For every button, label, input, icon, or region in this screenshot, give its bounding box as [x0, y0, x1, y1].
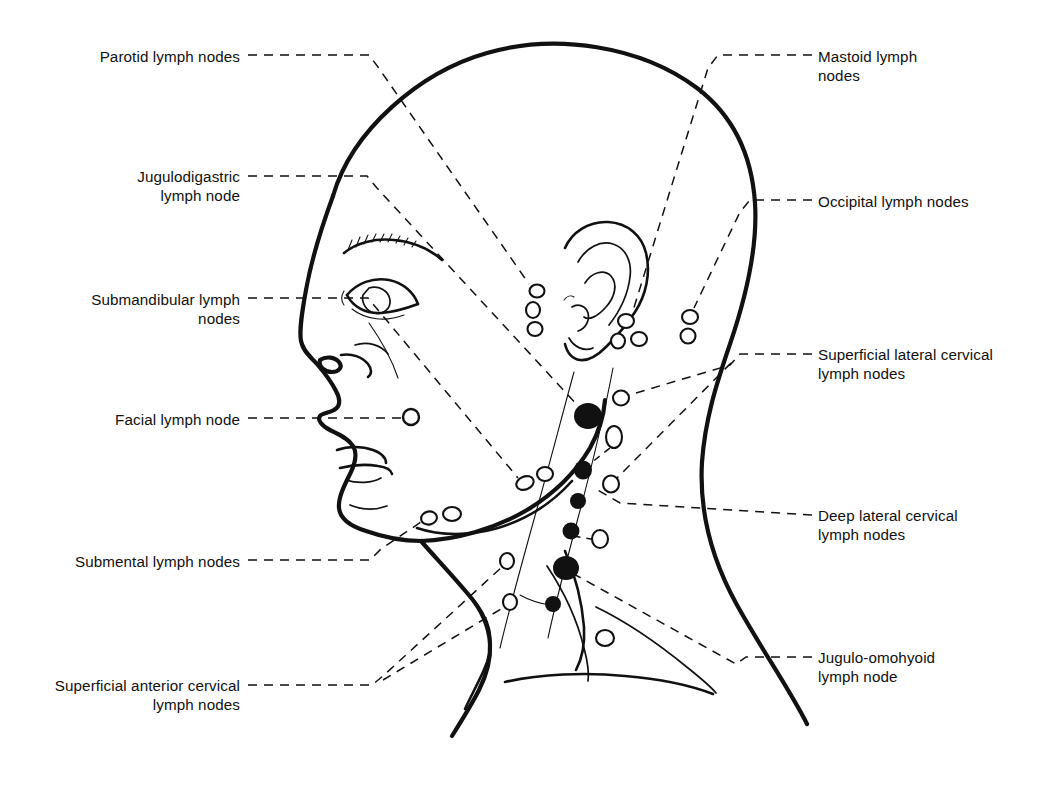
- nose-ala: [341, 354, 371, 377]
- leader-mastoid: [632, 55, 812, 314]
- lymph-node-deep-lateral-cervical-1: [606, 426, 622, 448]
- lymph-node-parotid-1: [530, 285, 545, 298]
- eye-inner-corner: [342, 291, 344, 305]
- lymph-node-deep-chain-6: [545, 596, 561, 612]
- clavicle-contour: [505, 674, 713, 694]
- lymph-node-deep-chain-2: [574, 461, 592, 480]
- leader-superficial-lateral-cervical-b: [617, 363, 731, 478]
- lymph-node-submental-2: [443, 507, 461, 521]
- label-occipital-lymph-nodes: Occipital lymph nodes: [818, 192, 1053, 211]
- eyebrow-hairs: [348, 234, 416, 250]
- skull-and-neck-contour: [333, 44, 807, 724]
- lymph-node-diagram: Parotid lymph nodes Jugulodigastric lymp…: [0, 0, 1061, 785]
- label-submandibular-lymph-nodes: Submandibular lymph nodes: [0, 290, 240, 328]
- lower-eyelid: [347, 295, 418, 313]
- label-facial-lymph-node: Facial lymph node: [0, 410, 240, 429]
- lymph-node-superficial-lateral-cervical-2: [603, 476, 619, 493]
- lymph-node-superficial-anterior-cervical-1: [500, 553, 514, 569]
- lymph-node-superficial-lateral-cervical-1: [613, 391, 629, 406]
- lymph-node-deep-lateral-cervical-2: [592, 530, 608, 548]
- anterior-neck-contour: [421, 541, 490, 736]
- lymph-node-mastoid-2: [611, 334, 625, 349]
- lymph-node-superficial-anterior-cervical-2: [503, 594, 517, 610]
- upper-lip: [337, 447, 386, 463]
- ear-concha: [584, 272, 615, 318]
- nose-mouth-group: [320, 343, 392, 508]
- lymph-node-deep-chain-4: [563, 523, 580, 540]
- lymph-node-deep-lateral-cervical-3: [596, 630, 614, 646]
- ear-tragus-notch: [564, 296, 574, 300]
- lymph-node-parotid-2: [526, 302, 540, 318]
- leader-submandibular: [248, 298, 518, 478]
- lymph-node-mastoid-1: [618, 314, 634, 328]
- lip-line: [340, 465, 392, 474]
- lymph-nodes-group: [403, 285, 698, 647]
- iris: [363, 287, 391, 313]
- ear-lobe: [569, 338, 593, 349]
- label-submental-lymph-nodes: Submental lymph nodes: [0, 552, 240, 571]
- lymph-node-parotid-3: [528, 322, 543, 336]
- lymph-node-occipital-2: [681, 329, 696, 344]
- leader-jugulo-omohyoid: [572, 573, 812, 664]
- lymph-node-jugulodigastric-solid: [574, 403, 602, 429]
- leader-superficial-anterior-cervical-a: [248, 566, 503, 685]
- upper-eyelid: [347, 279, 418, 304]
- lymph-node-submandibular-2: [537, 467, 553, 481]
- ear-antihelix: [578, 243, 630, 325]
- label-mastoid-lymph-nodes: Mastoid lymph nodes: [818, 47, 1053, 85]
- label-parotid-lymph-nodes: Parotid lymph nodes: [0, 47, 240, 66]
- lymph-node-jugulo-omohyoid-solid: [553, 556, 579, 580]
- lymph-node-occipital-1: [682, 310, 698, 324]
- chin-crease: [350, 505, 387, 509]
- label-superficial-anterior-cervical-lymph-nodes: Superficial anterior cervical lymph node…: [0, 676, 240, 714]
- facial-profile-contour: [300, 196, 421, 541]
- label-jugulodigastric-lymph-node: Jugulodigastric lymph node: [0, 167, 240, 205]
- lower-lip: [346, 478, 381, 482]
- leader-parotid: [248, 55, 529, 284]
- lymph-node-submental-1: [420, 510, 438, 526]
- lymph-node-deep-chain-3: [570, 493, 586, 509]
- lymph-node-facial: [403, 409, 419, 425]
- label-deep-lateral-cervical-lymph-nodes: Deep lateral cervical lymph nodes: [818, 506, 1053, 544]
- label-jugulo-omohyoid-lymph-node: Jugulo-omohyoid lymph node: [818, 648, 1053, 686]
- head-outline-group: [300, 44, 807, 736]
- label-superficial-lateral-cervical-lymph-nodes: Superficial lateral cervical lymph nodes: [818, 345, 1061, 383]
- lymph-node-mastoid-3: [631, 332, 647, 346]
- nostril: [320, 358, 341, 372]
- posterior-triangle-line: [547, 566, 588, 681]
